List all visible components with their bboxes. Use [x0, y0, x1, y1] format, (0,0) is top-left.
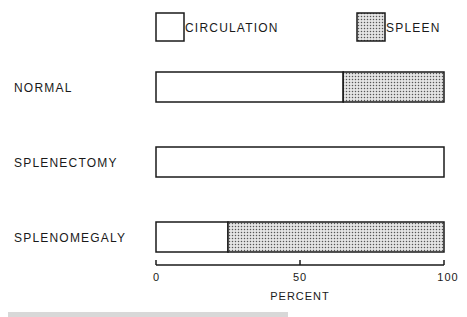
legend: CIRCULATIONSPLEEN — [156, 13, 441, 41]
x-tick-label: 50 — [293, 271, 307, 283]
bar-segment-circulation — [156, 222, 228, 252]
x-axis-title: PERCENT — [270, 290, 330, 302]
x-tick-label: 0 — [153, 271, 160, 283]
category-labels: NORMALSPLENECTOMYSPLENOMEGALY — [14, 81, 126, 245]
bar-segment-spleen — [228, 222, 444, 252]
x-tick-label: 100 — [437, 271, 458, 283]
category-label: NORMAL — [14, 81, 73, 95]
bar-segment-circulation — [156, 147, 444, 177]
bars — [156, 72, 444, 252]
category-label: SPLENOMEGALY — [14, 231, 126, 245]
category-label: SPLENECTOMY — [14, 156, 118, 170]
cropped-caption-fragment — [8, 312, 288, 317]
legend-swatch-spleen — [357, 13, 385, 41]
stacked-bar-chart: CIRCULATIONSPLEEN NORMALSPLENECTOMYSPLEN… — [0, 0, 467, 317]
legend-label-spleen: SPLEEN — [386, 21, 441, 35]
bar-segment-circulation — [156, 72, 343, 102]
legend-swatch-circulation — [156, 13, 184, 41]
bar-segment-spleen — [343, 72, 444, 102]
legend-label-circulation: CIRCULATION — [185, 21, 279, 35]
x-axis: 050100PERCENT — [153, 260, 459, 302]
